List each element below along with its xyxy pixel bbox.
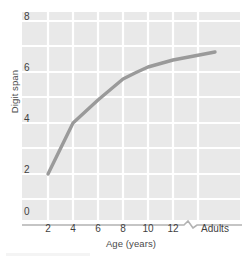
y-tick-label-0: 0	[24, 207, 38, 217]
digit-span-line-chart: Digit span	[0, 0, 244, 260]
x-tick-label-adults: Adults	[192, 223, 238, 234]
plot-svg	[22, 12, 240, 220]
x-tick-label-8: 8	[115, 223, 131, 234]
horizontal-gridlines	[22, 21, 240, 199]
vertical-gridlines	[48, 12, 198, 220]
x-tick-label-10: 10	[140, 223, 156, 234]
page-edge-artifact	[6, 253, 90, 256]
y-tick-label-4: 4	[24, 114, 38, 124]
x-tick-label-4: 4	[65, 223, 81, 234]
plot-area	[22, 12, 240, 220]
y-tick-label-6: 6	[24, 63, 38, 73]
x-axis-title: Age (years)	[22, 238, 240, 249]
x-tick-label-12: 12	[165, 223, 181, 234]
x-tick-label-6: 6	[90, 223, 106, 234]
y-tick-label-2: 2	[24, 165, 38, 175]
x-tick-label-2: 2	[40, 223, 56, 234]
y-tick-label-8: 8	[24, 12, 38, 22]
y-axis-title: Digit span	[9, 52, 20, 132]
